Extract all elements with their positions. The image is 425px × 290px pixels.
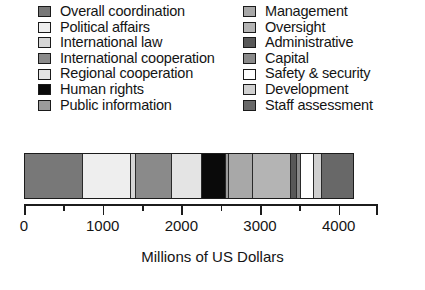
axis-tick-label: 2000 <box>165 217 198 234</box>
legend-swatch-icon <box>243 84 256 95</box>
legend-item[interactable]: Human rights <box>38 82 243 98</box>
x-axis-line <box>24 204 378 206</box>
bar-segment[interactable] <box>322 154 353 198</box>
legend-item[interactable]: Regional cooperation <box>38 66 243 82</box>
legend-item[interactable]: Overall coordination <box>38 4 243 20</box>
legend-item[interactable]: Political affairs <box>38 20 243 36</box>
legend-swatch-icon <box>243 37 256 48</box>
legend-item[interactable]: International cooperation <box>38 51 243 67</box>
bar-segment[interactable] <box>229 154 253 198</box>
bar-segment[interactable] <box>172 154 203 198</box>
legend-item[interactable]: Safety & security <box>243 66 413 82</box>
legend-item-label: International cooperation <box>60 51 215 67</box>
legend-item-label: Staff assessment <box>265 98 373 114</box>
axis-tick-minor <box>63 204 65 211</box>
legend-column-right: ManagementOversightAdministrativeCapital… <box>243 4 413 122</box>
legend-item[interactable]: Oversight <box>243 20 413 36</box>
bar-segment[interactable] <box>314 154 322 198</box>
legend-item-label: Overall coordination <box>60 4 185 20</box>
x-axis-title: Millions of US Dollars <box>0 248 425 265</box>
axis-end-tick <box>376 204 378 215</box>
legend-column-left: Overall coordinationPolitical affairsInt… <box>38 4 243 122</box>
legend-item[interactable]: Management <box>243 4 413 20</box>
legend-item-label: Human rights <box>60 82 144 98</box>
bar-segment[interactable] <box>25 154 83 198</box>
axis-tick-major <box>339 204 341 215</box>
legend-swatch-icon <box>243 69 256 80</box>
legend-item[interactable]: Public information <box>38 98 243 114</box>
stacked-bar <box>24 153 354 199</box>
chart-legend: Overall coordinationPolitical affairsInt… <box>0 4 425 122</box>
legend-item[interactable]: International law <box>38 35 243 51</box>
axis-tick-label: 1000 <box>86 217 119 234</box>
bar-segment[interactable] <box>136 154 172 198</box>
legend-item[interactable]: Administrative <box>243 35 413 51</box>
legend-item-label: International law <box>60 35 162 51</box>
legend-swatch-icon <box>243 100 256 111</box>
axis-tick-major <box>103 204 105 215</box>
axis-tick-major <box>24 204 26 215</box>
axis-tick-minor <box>142 204 144 211</box>
legend-item-label: Administrative <box>265 35 353 51</box>
axis-tick-label: 0 <box>20 217 28 234</box>
legend-item-label: Oversight <box>265 20 325 36</box>
legend-swatch-icon <box>243 6 256 17</box>
legend-item-label: Regional cooperation <box>60 66 193 82</box>
axis-tick-label: 3000 <box>243 217 276 234</box>
axis-tick-minor <box>299 204 301 211</box>
legend-swatch-icon <box>243 22 256 33</box>
axis-tick-label: 4000 <box>322 217 355 234</box>
axis-tick-major <box>181 204 183 215</box>
bar-segment[interactable] <box>202 154 226 198</box>
bar-segment[interactable] <box>301 154 314 198</box>
legend-swatch-icon <box>38 37 51 48</box>
x-axis: 01000200030004000 <box>24 204 378 230</box>
legend-item[interactable]: Development <box>243 82 413 98</box>
stacked-bar-chart: 01000200030004000 Millions of US Dollars <box>0 126 425 290</box>
bar-segment[interactable] <box>253 154 291 198</box>
legend-item-label: Public information <box>60 98 172 114</box>
axis-tick-minor <box>221 204 223 211</box>
legend-item-label: Management <box>265 4 348 20</box>
bar-segment[interactable] <box>83 154 131 198</box>
axis-tick-major <box>260 204 262 215</box>
legend-item-label: Political affairs <box>60 20 150 36</box>
legend-swatch-icon <box>243 53 256 64</box>
legend-item[interactable]: Staff assessment <box>243 98 413 114</box>
legend-item-label: Capital <box>265 51 309 67</box>
legend-item-label: Development <box>265 82 348 98</box>
legend-swatch-icon <box>38 84 51 95</box>
legend-swatch-icon <box>38 69 51 80</box>
legend-item-label: Safety & security <box>265 66 370 82</box>
legend-swatch-icon <box>38 6 51 17</box>
legend-swatch-icon <box>38 100 51 111</box>
legend-item[interactable]: Capital <box>243 51 413 67</box>
legend-swatch-icon <box>38 22 51 33</box>
legend-swatch-icon <box>38 53 51 64</box>
